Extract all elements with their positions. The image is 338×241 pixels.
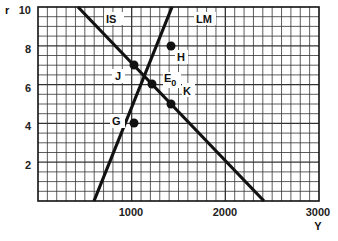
x-axis-label: Y: [314, 220, 322, 232]
point-g-label: G: [112, 115, 121, 127]
point-g: [130, 119, 139, 128]
point-j-label: J: [115, 70, 121, 82]
point-e0: [148, 80, 157, 89]
y-tick-10: 10: [19, 4, 31, 16]
x-tick-1000: 1000: [119, 206, 143, 218]
point-j: [130, 61, 139, 70]
point-k-label: K: [183, 85, 191, 97]
y-tick-8: 8: [25, 43, 31, 55]
x-tick-3000: 3000: [306, 206, 330, 218]
y-axis-label: r: [5, 4, 10, 16]
y-tick-2: 2: [25, 159, 31, 171]
x-tick-2000: 2000: [213, 206, 237, 218]
point-k: [167, 100, 176, 109]
y-tick-6: 6: [25, 82, 31, 94]
is-lm-chart: 10 8 6 4 2 r 1000 2000 3000 Y IS LM J H …: [0, 0, 338, 241]
is-label: IS: [106, 13, 116, 25]
lm-label: LM: [196, 13, 212, 25]
y-tick-4: 4: [25, 120, 32, 132]
point-h: [167, 42, 176, 51]
grid: [38, 7, 319, 201]
point-h-label: H: [177, 51, 185, 63]
